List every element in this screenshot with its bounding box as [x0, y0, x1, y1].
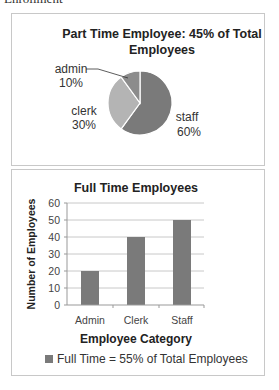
- x-axis-label: Employee Category: [80, 332, 192, 346]
- y-tick-40: 40: [48, 231, 60, 243]
- bars: [81, 220, 191, 305]
- y-tick-50: 50: [48, 214, 60, 226]
- bar-staff: [173, 220, 191, 305]
- y-tick-0: 0: [54, 299, 60, 311]
- x-tick-labels: Admin Clerk Staff: [75, 314, 193, 326]
- x-tick-clerk: Clerk: [124, 314, 149, 326]
- pie-label-clerk-value: 30%: [72, 118, 96, 132]
- pie-label-staff-value: 60%: [177, 125, 201, 139]
- pie-chart: Part Time Employee: 45% of Total Employe…: [12, 14, 266, 167]
- bar-clerk: [127, 237, 145, 305]
- pie-chart-title-line-2: Employees: [129, 43, 195, 57]
- bar-chart-frame: Full Time Employees: [11, 169, 265, 376]
- pie-label-staff-name: staff: [176, 110, 199, 124]
- y-tick-60: 60: [48, 197, 60, 209]
- bar-admin: [81, 271, 99, 305]
- pie-label-admin-value: 10%: [59, 76, 83, 90]
- pie-chart-title-line-1: Part Time Employee: 45% of Total: [62, 27, 262, 41]
- y-tick-30: 30: [48, 248, 60, 260]
- y-tick-10: 10: [48, 282, 60, 294]
- y-axis-label: Number of Employees: [25, 198, 37, 309]
- x-tick-staff: Staff: [171, 314, 192, 326]
- legend: Full Time = 55% of Total Employees: [45, 352, 248, 366]
- pie-label-admin-name: admin: [55, 62, 88, 76]
- legend-label: Full Time = 55% of Total Employees: [57, 352, 248, 366]
- x-tick-admin: Admin: [75, 314, 105, 326]
- y-tick-20: 20: [48, 265, 60, 277]
- clipped-document-text: Enrollment: [4, 0, 63, 7]
- pie-label-clerk-name: clerk: [71, 104, 97, 118]
- bar-chart-title: Full Time Employees: [74, 181, 198, 195]
- pie-slices: [108, 71, 172, 135]
- bar-chart: Full Time Employees: [12, 170, 266, 377]
- y-tick-labels: 0 10 20 30 40 50 60: [48, 197, 60, 311]
- pie-chart-frame: Part Time Employee: 45% of Total Employe…: [11, 13, 265, 166]
- legend-swatch: [45, 355, 53, 363]
